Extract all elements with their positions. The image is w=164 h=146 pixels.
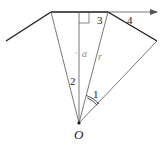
angle-1-label: 1 xyxy=(93,88,99,100)
origin-point xyxy=(77,121,80,124)
line-o-r xyxy=(79,12,108,123)
a-marker: ↑ xyxy=(75,51,78,56)
left-outer-line xyxy=(6,12,51,41)
region-4-label: 4 xyxy=(127,14,133,26)
right-angle-mark xyxy=(79,12,89,23)
line-o-left xyxy=(51,12,79,123)
perpendicular-a-label: a xyxy=(82,48,87,59)
right-outer-line xyxy=(108,12,157,41)
geometry-diagram: O a ↑ r 1 2 3 4 xyxy=(0,0,164,146)
origin-label: O xyxy=(74,127,84,142)
region-3-label: 3 xyxy=(97,14,103,26)
region-2-label: 2 xyxy=(70,75,76,87)
slant-r-label: r xyxy=(98,51,102,62)
line-o-right xyxy=(79,41,157,123)
